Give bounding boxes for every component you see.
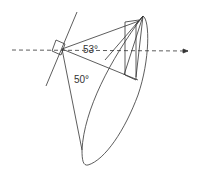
ray-bottom xyxy=(62,49,82,150)
angle-label-53: 53° xyxy=(83,45,98,55)
inner-ray-2 xyxy=(136,16,143,77)
boresight-axis xyxy=(12,50,188,51)
mount-line xyxy=(46,12,77,86)
ray-upper xyxy=(62,21,139,49)
inner-ray-1 xyxy=(124,16,143,75)
axis-arrow-icon xyxy=(183,49,188,53)
beam-diagram xyxy=(0,0,203,177)
angle-label-50: 50° xyxy=(74,75,89,85)
